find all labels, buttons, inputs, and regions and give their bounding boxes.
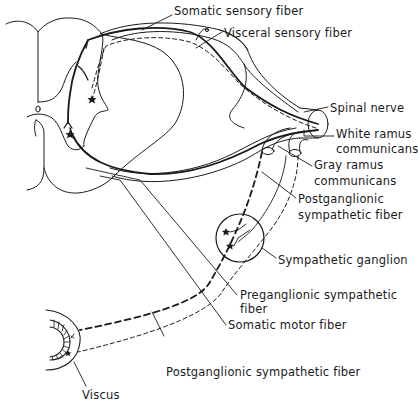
somatic-sensory-fiber [64, 28, 318, 128]
somatic-motor-fiber [70, 128, 318, 174]
label-visceral-sensory-fiber: Visceral sensory fiber [224, 26, 352, 40]
label-somatic-sensory-fiber: Somatic sensory fiber [174, 4, 303, 18]
neuron-cell-bodies [65, 95, 96, 139]
label-viscus: Viscus [82, 388, 120, 402]
label-postganglionic-right-line1: Postganglionic [298, 192, 384, 206]
label-gray-ramus-line2: communicans [314, 174, 396, 188]
label-preganglionic-line1: Preganglionic sympathetic [240, 288, 397, 302]
viscus [46, 310, 80, 370]
label-postganglionic-right-line2: sympathetic fiber [298, 208, 403, 222]
label-postganglionic-bottom: Postganglionic sympathetic fiber [166, 365, 361, 379]
label-white-ramus-line2: communicans [336, 142, 418, 156]
label-white-ramus-line1: White ramus [336, 127, 412, 141]
label-spinal-nerve: Spinal nerve [330, 101, 404, 115]
label-somatic-motor-fiber: Somatic motor fiber [228, 318, 347, 332]
spinal-cord [6, 18, 184, 193]
label-preganglionic-line2: fiber [240, 302, 267, 316]
preganglionic-sympathetic-fiber [80, 48, 262, 330]
label-sympathetic-ganglion: Sympathetic ganglion [278, 253, 408, 267]
label-gray-ramus-line1: Gray ramus [314, 158, 383, 172]
